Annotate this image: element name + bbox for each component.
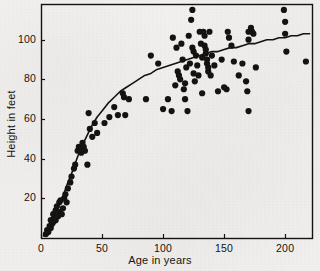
scatter-points	[43, 7, 309, 237]
y-axis-title: Height in feet	[5, 76, 17, 172]
plot-canvas	[0, 0, 320, 271]
x-tick-label: 150	[210, 242, 238, 254]
y-tick-label: 100	[8, 33, 36, 45]
x-tick-label: 50	[88, 242, 116, 254]
x-axis-ticks	[42, 234, 286, 238]
x-tick-label: 100	[149, 242, 177, 254]
y-tick-label: 20	[8, 191, 36, 203]
x-tick-label: 200	[271, 242, 299, 254]
scatter-plot-figure: 050100150200 20406080100 Age in years He…	[0, 0, 320, 271]
x-tick-label: 0	[27, 242, 55, 254]
fitted-growth-curve	[43, 34, 309, 236]
x-axis-title: Age in years	[0, 254, 320, 266]
